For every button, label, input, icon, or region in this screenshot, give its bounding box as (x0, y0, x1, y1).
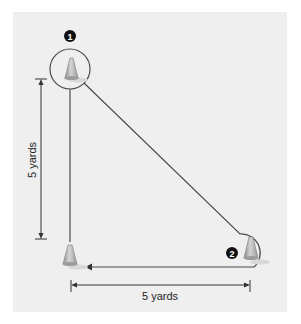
vertical-dimension-label: 5 yards (26, 141, 38, 178)
step-marker-1: 1 (64, 30, 76, 42)
svg-text:1: 1 (67, 32, 72, 42)
cone-icon (63, 245, 89, 270)
horizontal-dimension-label: 5 yards (142, 290, 179, 302)
cone-icon (64, 58, 88, 83)
step-marker-2: 2 (226, 247, 238, 259)
drill-diagram: 1 2 5 yards 5 yards (0, 0, 301, 324)
svg-text:2: 2 (229, 249, 234, 259)
